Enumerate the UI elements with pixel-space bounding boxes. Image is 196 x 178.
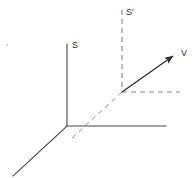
s-prime-axis-label: S' <box>126 7 134 17</box>
stray-speck-mark <box>6 44 8 46</box>
diagram-canvas: S S' V <box>0 0 196 178</box>
velocity-vector-arrow <box>122 56 173 92</box>
vector-diagram-figure: S S' V <box>0 0 196 178</box>
s-prime-depth-dashed-line <box>71 92 122 139</box>
velocity-vector-label: V <box>181 48 187 58</box>
s-axis-label: S <box>72 40 78 50</box>
depth-axis-line <box>13 126 67 176</box>
